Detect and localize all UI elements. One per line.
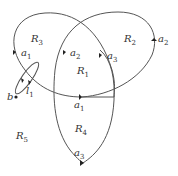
right-loop-curve <box>54 12 155 163</box>
vertex-b <box>14 95 17 98</box>
label-a1-left: a1 <box>21 48 31 61</box>
label-a3-bottom: a3 <box>74 148 84 161</box>
label-R2: R2 <box>124 34 136 47</box>
label-l1: l1 <box>26 86 34 99</box>
diagram-canvas: R3 R2 R1 R4 R5 a1 a2 a3 a2 a1 a3 l1 b <box>0 0 178 176</box>
arrow-a2-right <box>151 38 157 41</box>
label-a2-right: a2 <box>158 34 168 47</box>
label-R5: R5 <box>16 131 28 144</box>
label-a1-bottom: a1 <box>74 100 84 113</box>
label-R4: R4 <box>75 124 87 137</box>
label-a3-mid: a3 <box>107 51 117 64</box>
label-a2-mid: a2 <box>70 48 80 61</box>
label-b: b <box>7 92 13 102</box>
arrow-a2-mid <box>63 50 66 55</box>
arrow-small1 <box>21 78 24 83</box>
label-R3: R3 <box>31 34 43 47</box>
arrow-a3-mid <box>99 53 102 58</box>
label-R1: R1 <box>77 66 89 79</box>
